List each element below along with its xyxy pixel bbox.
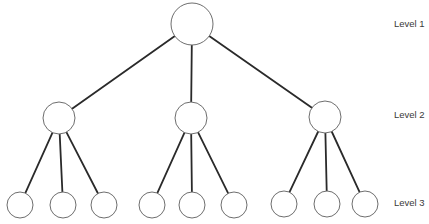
tree-node-l2-c	[309, 101, 341, 133]
level-3-label: Level 3	[394, 198, 425, 208]
edge-root-to-l2-c	[209, 36, 312, 108]
level-2-label: Level 2	[394, 110, 425, 120]
tree-node-l3-b3	[221, 192, 247, 218]
tree-node-l3-a3	[91, 192, 117, 218]
tree-diagram	[0, 0, 429, 224]
edge-l2-b-to-l3-b1	[157, 133, 184, 194]
tree-node-l3-c2	[314, 191, 340, 217]
edge-l2-c-to-l3-c3	[332, 132, 360, 193]
edge-l2-a-to-l3-a3	[66, 132, 98, 193]
tree-node-l3-b1	[139, 192, 165, 218]
edge-l2-c-to-l3-c1	[290, 132, 319, 193]
tree-node-l3-c3	[352, 191, 378, 217]
edge-l2-b-to-l3-b2	[191, 134, 192, 192]
edge-l2-a-to-l3-a1	[25, 133, 52, 194]
edge-root-to-l2-b	[191, 45, 192, 102]
edge-l2-c-to-l3-c2	[325, 133, 326, 191]
edge-l2-b-to-l3-b3	[198, 132, 228, 193]
tree-node-l3-a2	[50, 192, 76, 218]
tree-node-l3-a1	[7, 192, 33, 218]
tree-node-l2-a	[43, 102, 75, 134]
level-1-label: Level 1	[394, 19, 425, 29]
tree-node-l3-b2	[179, 192, 205, 218]
edge-root-to-l2-a	[72, 36, 175, 109]
edge-l2-a-to-l3-a2	[60, 134, 63, 192]
tree-node-l3-c1	[271, 191, 297, 217]
tree-node-root	[171, 3, 213, 45]
tree-node-l2-b	[175, 102, 207, 134]
